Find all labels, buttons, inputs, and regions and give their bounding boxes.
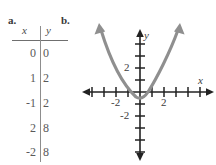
table-cell-x: 1 [14, 71, 36, 86]
table-cell-y: 8 [43, 145, 65, 160]
table-cell-y: 8 [43, 121, 65, 136]
table-cell-x: 0 [14, 46, 36, 61]
table-cell-y: 2 [43, 96, 65, 111]
table-cell-y: 2 [43, 71, 65, 86]
xy-table: x y 0 0 1 2 -1 2 2 8 -2 8 [0, 24, 80, 165]
arrow-up-icon [136, 29, 144, 37]
table-cell-x: -1 [14, 96, 36, 111]
x-tick-label-2: 2 [161, 96, 167, 108]
parabola-graph: y x -2 2 2 -2 [80, 0, 216, 165]
table-header-y: y [46, 24, 51, 36]
figure-container: a. b. x y 0 0 1 2 -1 2 2 8 -2 8 [0, 0, 216, 165]
table-cell-x: -2 [14, 145, 36, 160]
y-tick-label-neg2: -2 [120, 109, 129, 121]
table-cell-y: 0 [43, 46, 65, 61]
graph-svg [80, 0, 216, 165]
x-axis-label: x [198, 74, 203, 86]
table-cell-x: 2 [14, 121, 36, 136]
curve-arrow-up-left-icon [95, 23, 106, 35]
arrow-right-icon [206, 88, 214, 96]
arrow-down-icon [136, 153, 144, 161]
y-tick-label-2: 2 [124, 61, 130, 73]
table-header-x: x [22, 24, 27, 36]
x-tick-label-neg2: -2 [111, 96, 120, 108]
table-column-divider [40, 26, 41, 162]
arrow-left-icon [82, 88, 90, 96]
table-header-row: x y [14, 24, 68, 39]
y-axis-label: y [144, 29, 149, 41]
